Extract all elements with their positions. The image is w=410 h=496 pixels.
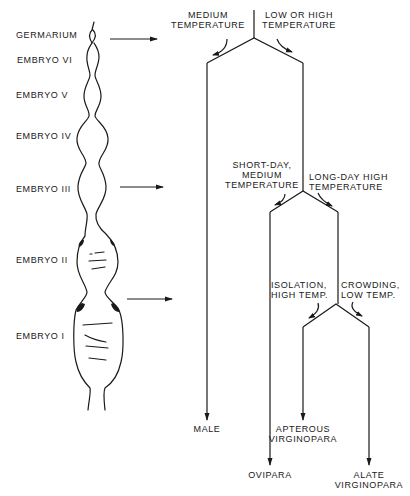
outcome-ovipara: OVIPARA — [240, 470, 300, 480]
stage-label-embryo-6: EMBRYO VI — [17, 55, 72, 65]
split-2-branches — [270, 191, 338, 212]
crowding-curve-arrow — [352, 302, 362, 316]
embryo-2-stripe — [89, 260, 106, 261]
embryo-1-stripe — [89, 358, 106, 360]
embryo-1-stripe — [83, 323, 112, 325]
embryo-2-right-eye — [110, 239, 115, 246]
medium-temp-curve-arrow — [213, 39, 227, 55]
stage-label-embryo-3: EMBRYO III — [16, 184, 71, 194]
embryo-1-left-eye — [76, 303, 85, 312]
isolation-curve-arrow — [309, 303, 319, 318]
outcome-apterous-virginopara: APTEROUS VIRGINOPARA — [268, 424, 338, 444]
embryo-1-right-eye — [111, 303, 119, 312]
stage-label-embryo-2: EMBRYO II — [16, 255, 68, 265]
embryo-1-stripe — [86, 346, 108, 348]
low-high-temp-curve-arrow — [277, 39, 292, 52]
condition-low-or-high-temperature: LOW OR HIGH TEMPERATURE — [259, 10, 339, 30]
stage-label-embryo-1: EMBRYO I — [16, 331, 65, 341]
condition-short-day-medium-temperature: SHORT-DAY, MEDIUM TEMPERATURE — [222, 160, 302, 190]
stage-pointer-arrows — [110, 39, 172, 299]
outcome-male: MALE — [187, 424, 227, 434]
stage-label-embryo-4: EMBRYO IV — [16, 131, 71, 141]
condition-crowding-low-temp: CROWDING, LOW TEMP. — [341, 280, 400, 300]
condition-medium-temperature: MEDIUM TEMPERATURE — [170, 10, 246, 30]
aphid-morph-determination-diagram — [0, 0, 410, 496]
germarium-shape — [89, 22, 95, 43]
condition-long-day-high-temperature: LONG-DAY HIGH TEMPERATURE — [309, 172, 388, 192]
embryo-2-stripe — [90, 252, 104, 254]
outcome-alate-virginopara: ALATE VIRGINOPARA — [334, 470, 404, 490]
embryo-1-stripe — [85, 335, 106, 342]
stage-label-germarium: GERMARIUM — [16, 30, 77, 40]
condition-isolation-high-temp: ISOLATION, HIGH TEMP. — [271, 280, 328, 300]
ovariole-right-outline — [94, 43, 123, 410]
embryo-2-stripe — [92, 267, 105, 269]
ovariole-left-outline — [74, 43, 92, 410]
stage-label-embryo-5: EMBRYO V — [16, 90, 68, 100]
decision-tree — [207, 10, 369, 465]
ovariole-drawing — [74, 22, 123, 410]
embryo-2-left-eye — [79, 240, 84, 247]
